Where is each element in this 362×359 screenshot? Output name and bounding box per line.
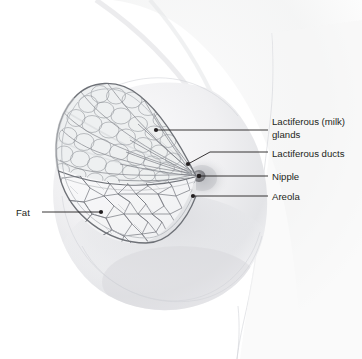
leader-dot-areola [191,194,195,198]
label-nipple: Nipple [272,171,299,182]
label-ducts: Lactiferous ducts [272,148,345,159]
breast-anatomy-diagram: Lactiferous (milk) glands Lactiferous du… [0,0,362,359]
leader-dot-fat [99,210,103,214]
leader-dot-glands [154,128,158,132]
leader-dot-nipple [197,174,202,179]
label-glands-line1: Lactiferous (milk) [272,116,345,127]
label-glands-line2: glands [272,129,300,140]
inframammary-fold [237,306,239,359]
leader-dot-ducts [186,162,190,166]
label-fat: Fat [16,207,30,218]
label-areola: Areola [272,191,300,202]
